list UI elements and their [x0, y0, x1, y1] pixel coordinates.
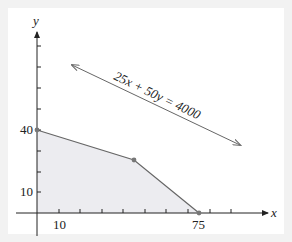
x-axis-label: x [270, 205, 277, 220]
chart-svg: y x 10 75 10 40 25x + 50y = 4000 [0, 0, 292, 242]
objective-equation-label: 25x + 50y = 4000 [112, 68, 204, 122]
point-0-40 [35, 128, 40, 133]
y-tick-label-40: 40 [20, 122, 33, 137]
y-tick-label-10: 10 [20, 184, 33, 199]
point-75-0 [197, 211, 202, 216]
y-axis-label: y [31, 13, 39, 28]
x-tick-label-10: 10 [53, 217, 66, 232]
point-45-25 [132, 158, 137, 163]
objective-line [72, 65, 240, 145]
feasible-region [37, 130, 199, 213]
x-tick-label-75: 75 [192, 217, 205, 232]
